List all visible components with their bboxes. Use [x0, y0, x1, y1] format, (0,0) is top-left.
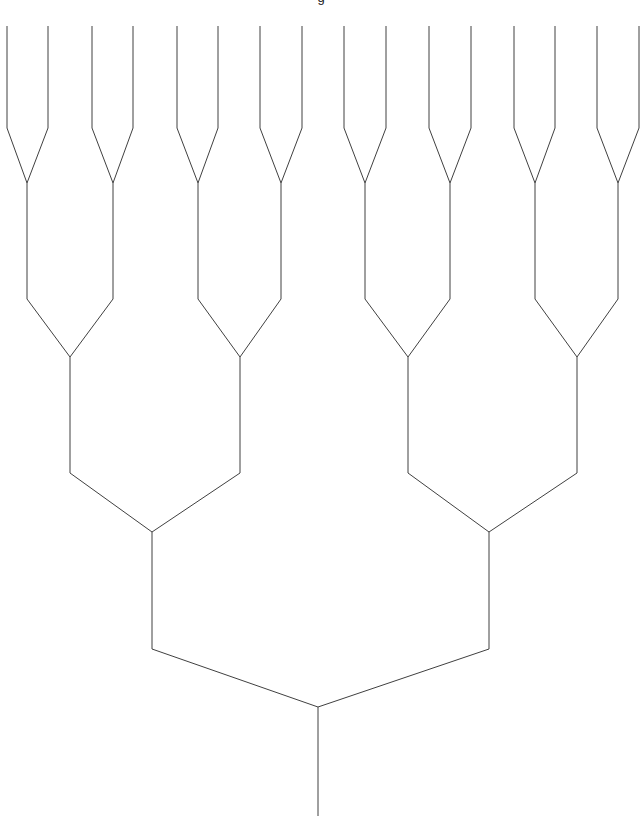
dendrogram-figure: g [0, 0, 642, 824]
dendrogram-canvas [0, 0, 642, 824]
branch-l2-n1-left [27, 183, 70, 357]
branch-l1-n6-right [450, 26, 471, 183]
branch-l1-n1-right [27, 26, 48, 183]
branch-l2-n4-right [577, 183, 618, 357]
branch-l3-n2-right [489, 357, 577, 532]
branch-l2-n3-left [365, 183, 408, 357]
branch-l1-n5-right [365, 26, 386, 183]
branch-l2-n1-right [70, 183, 113, 357]
branch-l1-n2-right [113, 26, 133, 183]
branch-l1-n2-left [92, 26, 113, 183]
branch-l2-n4-left [535, 183, 577, 357]
branch-l4-n1-right [318, 532, 489, 707]
branch-l2-n2-left [198, 183, 240, 357]
branch-l1-n3-right [198, 26, 218, 183]
tree-edges-group [7, 26, 639, 816]
branch-l1-n4-left [260, 26, 281, 183]
branch-l2-n3-right [408, 183, 450, 357]
branch-l1-n5-left [344, 26, 365, 183]
branch-l1-n8-left [597, 26, 618, 183]
branch-l1-n4-right [281, 26, 302, 183]
branch-l3-n2-left [408, 357, 489, 532]
branch-l1-n6-left [429, 26, 450, 183]
branch-l3-n1-left [70, 357, 152, 532]
branch-l1-n3-left [177, 26, 198, 183]
branch-l3-n1-right [152, 357, 240, 532]
branch-l1-n1-left [7, 26, 27, 183]
branch-l1-n8-right [618, 26, 639, 183]
branch-l2-n2-right [240, 183, 281, 357]
branch-l1-n7-left [514, 26, 535, 183]
branch-l4-n1-left [152, 532, 318, 707]
branch-l1-n7-right [535, 26, 555, 183]
